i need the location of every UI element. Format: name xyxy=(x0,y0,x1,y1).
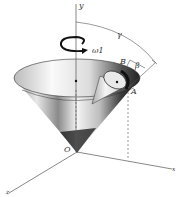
omega-label: ω1 xyxy=(92,47,104,55)
x-axis xyxy=(77,152,172,169)
gamma-arc xyxy=(76,22,155,62)
rotation-arrowhead-icon xyxy=(82,48,88,54)
axis-center-dot xyxy=(75,80,77,82)
x-axis-label: x xyxy=(172,166,175,172)
gamma-label: γ xyxy=(117,31,122,39)
z-axis xyxy=(9,152,77,193)
z-axis-label: z xyxy=(6,189,9,195)
point-b-label: B xyxy=(120,58,126,66)
rotation-arrow-icon xyxy=(61,37,84,51)
point-a-label: A xyxy=(131,88,137,96)
omega-subscript: 1 xyxy=(99,46,104,55)
origin-label: O xyxy=(64,146,71,154)
y-axis-label: y xyxy=(79,2,84,10)
beta-label: β xyxy=(135,62,140,70)
cone-diagram: y ω1 γ B β A O x z xyxy=(0,0,182,197)
rolling-cone-center-dot xyxy=(116,81,118,83)
diagram-canvas xyxy=(0,0,182,197)
